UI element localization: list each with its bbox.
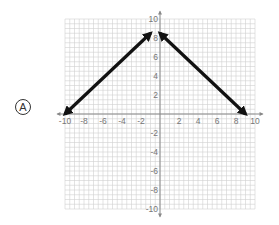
x-tick-label: -4 [118, 116, 126, 126]
x-tick-label: 2 [177, 116, 182, 126]
x-tick-label: 10 [250, 116, 260, 126]
y-tick-label: 10 [149, 14, 159, 24]
y-tick-label: -2 [150, 128, 158, 138]
x-axis-arrow-icon [260, 112, 264, 116]
y-tick-label: -10 [146, 204, 159, 214]
x-tick-label: -8 [80, 116, 88, 126]
y-tick-label: 2 [153, 90, 158, 100]
x-tick-label: -2 [137, 116, 145, 126]
y-tick-label: 6 [153, 52, 158, 62]
x-tick-label: 4 [196, 116, 201, 126]
x-tick-label: 6 [215, 116, 220, 126]
y-tick-label: 8 [153, 33, 158, 43]
x-tick-label: -10 [59, 116, 72, 126]
y-tick-label: -6 [150, 166, 158, 176]
y-tick-label: 4 [153, 71, 158, 81]
y-axis-arrow-icon [158, 10, 162, 14]
y-tick-label: -4 [150, 147, 158, 157]
x-tick-label: 8 [234, 116, 239, 126]
y-axis-arrow-icon [158, 214, 162, 218]
y-tick-label: -8 [150, 185, 158, 195]
x-tick-label: -6 [99, 116, 107, 126]
coordinate-plane: -10-8-6-4-2246810108642-2-4-6-8-10 [0, 0, 279, 225]
